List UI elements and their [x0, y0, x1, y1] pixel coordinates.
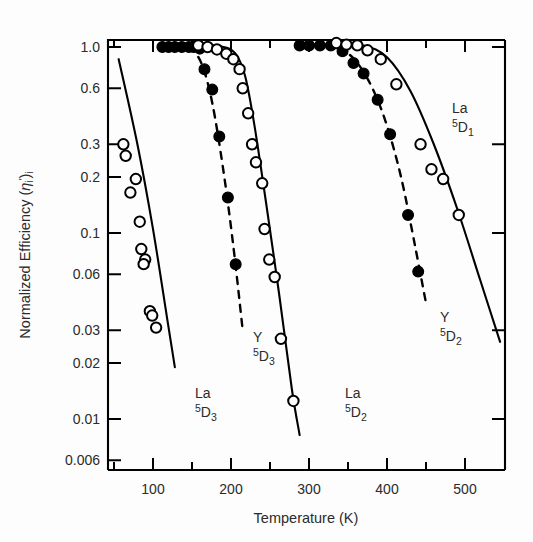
data-point-la-5d1-6: [415, 139, 425, 149]
y-tick-label-0.006: 0.006: [65, 452, 100, 468]
data-point-la-5d3-0: [118, 139, 128, 149]
data-point-y-5d2-10: [413, 266, 424, 277]
data-point-la-5d1-0: [331, 38, 341, 48]
data-point-y-5d2-1: [304, 40, 315, 51]
data-point-y-5d2-8: [385, 129, 396, 140]
data-point-la-5d3-9: [147, 310, 157, 320]
series-label-element: Y: [253, 329, 263, 345]
data-point-la-5d1-2: [352, 40, 362, 50]
data-point-la-5d2-8: [247, 139, 257, 149]
y-tick-label-0.3: 0.3: [81, 136, 101, 152]
data-point-la-5d2-6: [238, 83, 248, 93]
data-point-la-5d3-3: [125, 187, 135, 197]
data-point-la-5d1-7: [426, 164, 436, 174]
data-point-y-5d3-7: [199, 64, 210, 75]
data-point-la-5d1-4: [376, 54, 386, 64]
y-tick-label-0.6: 0.6: [81, 80, 101, 96]
x-tick-label-200: 200: [219, 481, 243, 497]
chart-canvas: 1.00.60.30.20.10.060.030.020.010.006 100…: [0, 0, 533, 542]
data-point-la-5d1-8: [438, 174, 448, 184]
data-point-la-5d2-9: [251, 157, 261, 167]
series-label-element: Y: [440, 309, 450, 325]
data-point-y-5d3-9: [214, 131, 225, 142]
data-point-y-5d2-5: [348, 58, 359, 69]
y-tick-label-0.1: 0.1: [81, 225, 101, 241]
data-point-y-5d2-9: [403, 210, 414, 221]
figure-container: 1.00.60.30.20.10.060.030.020.010.006 100…: [0, 0, 533, 542]
data-point-la-5d1-1: [341, 39, 351, 49]
data-point-la-5d3-2: [131, 174, 141, 184]
data-point-y-5d2-2: [315, 40, 326, 51]
y-axis-title-sub2: i: [24, 171, 35, 173]
y-tick-label-0.2: 0.2: [81, 169, 101, 185]
x-tick-label-300: 300: [297, 481, 321, 497]
y-axis-title: Normalized Efficiency (ηi')i: [17, 171, 35, 338]
y-tick-label-0.01: 0.01: [73, 411, 100, 427]
data-point-y-5d3-11: [230, 259, 241, 270]
data-point-la-5d2-11: [259, 224, 269, 234]
y-tick-label-1.0: 1.0: [81, 39, 101, 55]
data-point-y-5d3-10: [222, 192, 233, 203]
data-point-la-5d2-15: [288, 396, 298, 406]
series-label-element: La: [452, 100, 468, 116]
x-axis-title: Temperature (K): [254, 510, 359, 526]
series-label-element: La: [195, 385, 211, 401]
data-point-la-5d3-5: [136, 244, 146, 254]
data-point-la-5d1-5: [391, 79, 401, 89]
data-point-la-5d1-9: [454, 210, 464, 220]
data-point-la-5d3-4: [135, 217, 145, 227]
y-axis-title-eta: η: [17, 183, 33, 191]
data-point-la-5d2-10: [257, 178, 267, 188]
data-point-la-5d2-5: [234, 64, 244, 74]
data-point-la-5d2-14: [276, 334, 286, 344]
x-tick-label-500: 500: [453, 481, 477, 497]
data-point-la-5d2-12: [264, 254, 274, 264]
data-point-la-5d3-1: [121, 151, 131, 161]
x-tick-label-100: 100: [141, 481, 165, 497]
x-tick-label-400: 400: [375, 481, 399, 497]
data-point-y-5d3-8: [207, 84, 218, 95]
data-point-la-5d3-10: [151, 322, 161, 332]
data-point-la-5d3-7: [138, 259, 148, 269]
y-tick-label-0.03: 0.03: [73, 322, 100, 338]
data-point-y-5d2-6: [358, 68, 369, 79]
y-tick-label-0.06: 0.06: [73, 266, 100, 282]
data-point-la-5d1-3: [362, 45, 372, 55]
data-point-la-5d2-4: [228, 54, 238, 64]
y-axis-title-text: Normalized Efficiency (: [17, 190, 33, 338]
data-point-la-5d2-13: [269, 272, 279, 282]
data-point-y-5d2-7: [372, 94, 383, 105]
y-tick-label-0.02: 0.02: [73, 355, 100, 371]
data-point-la-5d2-7: [243, 108, 253, 118]
svg-text:Normalized Efficiency (ηi')i: Normalized Efficiency (ηi')i: [17, 171, 35, 338]
series-label-element: La: [345, 385, 361, 401]
